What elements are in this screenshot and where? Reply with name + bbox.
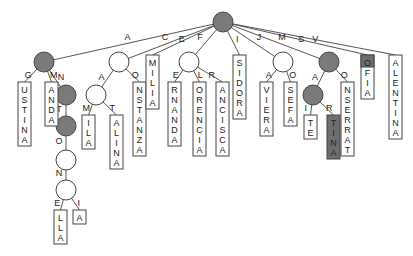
edge-label-s: S [298, 34, 304, 44]
leaf-box-ia: A [73, 210, 86, 224]
leaf-letter: I [366, 78, 369, 88]
leaf-box-rancisca: ANCISCA [216, 82, 229, 156]
leaf-letter: A [330, 148, 336, 158]
edge [223, 22, 396, 55]
edge-label-l: L [198, 70, 203, 80]
trie-node-f [179, 52, 199, 72]
leaf-letter: A [85, 138, 91, 148]
leaf-box-rtina: TINA [327, 115, 340, 159]
leaf-letter: A [392, 128, 398, 138]
leaf-letter: I [238, 68, 241, 78]
leaf-letter: R [236, 98, 243, 108]
leaf-letter: N [392, 118, 399, 128]
edge-label-o: O [132, 70, 139, 80]
edge-label-v: V [312, 34, 318, 44]
leaf-letter: A [171, 135, 177, 145]
edge-label-m: M [278, 32, 286, 42]
leaf-letter: R [344, 115, 351, 125]
edge-label-i: I [304, 103, 307, 113]
leaf-box-ernanda: RNANDA [168, 82, 181, 146]
leaf-box-mila: ILA [82, 115, 95, 149]
trie-node-c [109, 52, 129, 72]
leaf-letter: N [392, 88, 399, 98]
edge-label-e: E [179, 34, 185, 44]
leaf-letter: I [265, 95, 268, 105]
leaf-letter: I [151, 68, 154, 78]
leaf-letter: A [196, 145, 202, 155]
leaf-letter: A [344, 135, 350, 145]
leaf-letter: N [171, 115, 178, 125]
leaf-box-emilia: MILIA [146, 55, 159, 109]
edge-label-r: R [209, 70, 216, 80]
edge-label-a: A [266, 70, 272, 80]
leaf-letter: S [219, 125, 225, 135]
leaf-box-isidora: SIDORA [233, 55, 246, 119]
leaf-box-onstanza: NSTANZA [133, 82, 146, 156]
leaf-letter: N [136, 85, 143, 95]
leaf-letter: N [196, 115, 203, 125]
trie-node-a [34, 52, 54, 72]
leaf-letter: A [219, 85, 225, 95]
leaf-letter: I [151, 88, 154, 98]
leaf-box-onserrat: NSERRAT [341, 82, 354, 156]
leaf-letter: N [48, 95, 55, 105]
leaf-letter: E [307, 128, 313, 138]
leaf-letter: O [196, 85, 203, 95]
edge-label-m: M [50, 70, 58, 80]
trie-diagram: ANTONCAFJMAGMEIMTOEELRIAOIROSV USTINAAND… [0, 0, 413, 256]
leaf-letter: I [332, 128, 335, 138]
leaf-letter: E [263, 105, 269, 115]
leaf-letter: T [393, 98, 399, 108]
leaf-letter: S [236, 58, 242, 68]
edge-label-f: F [197, 32, 203, 42]
leaf-letter: L [150, 78, 155, 88]
leaf-box-talina: ALINA [110, 115, 123, 169]
trie-node-ca [86, 85, 106, 105]
leaf-box-manda: ANDA [45, 82, 58, 126]
leaf-letter: N [136, 125, 143, 135]
leaf-letter: S [287, 85, 293, 95]
leaf-letter: A [263, 125, 269, 135]
leaf-letter: C [219, 135, 226, 145]
leaf-letter: S [21, 95, 27, 105]
leaf-letter: N [330, 138, 337, 148]
leaf-letter: C [196, 125, 203, 135]
edge-label-n: N [56, 168, 63, 178]
leaf-letter: F [365, 68, 371, 78]
leaf-letter: R [344, 125, 351, 135]
leaf-box-valentina: ALENTINA [389, 55, 402, 139]
edge-label-a: A [312, 72, 318, 82]
leaf-letter: M [149, 58, 157, 68]
edge-label-o: O [55, 136, 62, 146]
edge-label-a: A [98, 72, 104, 82]
leaf-letter: A [136, 115, 142, 125]
leaf-letter: T [137, 105, 143, 115]
leaf-letter: A [76, 213, 82, 223]
leaf-letter: T [308, 118, 314, 128]
leaf-letter: N [21, 125, 28, 135]
leaf-letter: I [23, 115, 26, 125]
edge-label-a: A [124, 32, 130, 42]
leaf-letter: U [21, 85, 28, 95]
leaf-letter: A [287, 115, 293, 125]
trie-node-anto [56, 150, 76, 170]
edge-label-c: C [162, 32, 169, 42]
leaf-letter: N [344, 85, 351, 95]
trie-node-ant [56, 116, 76, 136]
leaf-letter: A [136, 145, 142, 155]
leaf-letter: O [364, 58, 371, 68]
leaf-box-ella: LLA [54, 210, 67, 244]
leaf-letter: A [113, 118, 119, 128]
leaf-box-osefa: SEFA [284, 82, 297, 126]
leaf-letter: N [171, 95, 178, 105]
leaf-letter: A [57, 233, 63, 243]
leaf-letter: L [114, 128, 119, 138]
root-node [213, 12, 233, 32]
leaf-letter: E [196, 105, 202, 115]
leaf-box-gustina: USTINA [18, 82, 31, 146]
leaf-letter: A [219, 145, 225, 155]
leaf-box-sofia: OFIA [361, 55, 374, 99]
trie-node-j [273, 52, 293, 72]
leaf-letter: C [219, 105, 226, 115]
edge-label-o: O [289, 70, 296, 80]
